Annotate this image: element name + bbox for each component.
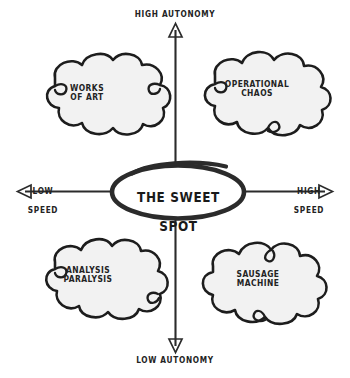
quadrant-diagram: HIGH AUTONOMY LOW AUTONOMY LOW SPEED HIG… xyxy=(0,0,350,378)
center-label: THE SWEET SPOT xyxy=(120,177,237,235)
axis-label-high-speed: HIGH SPEED xyxy=(282,178,336,215)
center-label-line2: SPOT xyxy=(159,219,197,234)
axis-label-high-speed-line2: SPEED xyxy=(294,205,324,215)
center-label-line1: THE SWEET xyxy=(137,190,220,205)
axis-label-low-autonomy: LOW AUTONOMY xyxy=(121,356,229,365)
axis-label-low-speed-line2: SPEED xyxy=(28,205,58,215)
axis-label-high-autonomy: HIGH AUTONOMY xyxy=(121,10,229,19)
quadrant-label-bottom-left: ANALYSIS PARALYSIS xyxy=(46,266,130,285)
axis-label-low-speed: LOW SPEED xyxy=(16,178,70,215)
axis-label-low-speed-line1: LOW xyxy=(33,186,54,196)
quadrant-label-top-right: OPERATIONAL CHAOS xyxy=(212,80,302,99)
axis-label-high-speed-line1: HIGH xyxy=(297,186,321,196)
quadrant-label-bottom-right: SAUSAGE MACHINE xyxy=(214,270,302,289)
quadrant-label-top-left: WORKS OF ART xyxy=(48,84,126,103)
